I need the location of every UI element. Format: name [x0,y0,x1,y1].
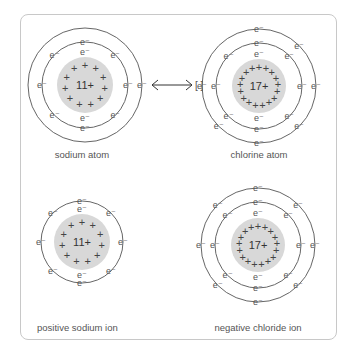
sodium-ion-diagram: +++++++++++11+e⁻e⁻e⁻e⁻e⁻e⁻e⁻e⁻e⁻e⁻ [36,196,128,288]
nuclear-charge: 17+ [250,80,269,92]
electron: e⁻ [106,266,116,276]
electron: e⁻ [311,81,321,91]
proton-plus-icon: + [90,219,96,231]
label-chlorine-atom: chlorine atom [230,149,287,160]
proton-plus-icon: + [251,258,257,270]
electron: e⁻ [310,240,320,250]
proton-plus-icon: + [84,255,90,267]
proton-plus-icon: + [258,258,264,270]
electron: e⁻ [253,208,263,218]
electron: e⁻ [80,113,90,123]
electron: e⁻ [123,80,133,90]
proton-plus-icon: + [71,62,77,74]
proton-plus-icon: + [79,216,85,228]
electron: e⁻ [293,200,303,210]
electron: e⁻ [50,110,60,120]
electron: e⁻ [213,200,223,210]
electron: e⁻ [50,50,60,60]
electron: e⁻ [213,280,223,290]
electron: e⁻ [223,270,233,280]
electron: e⁻ [224,111,234,121]
electron: e⁻ [211,81,221,91]
nuclear-charge: 17+ [249,239,268,251]
electron: e⁻ [214,121,224,131]
proton-plus-icon: + [61,228,67,240]
chloride-ion-diagram: +++++++++++++++++17+e⁻e⁻e⁻e⁻e⁻e⁻e⁻e⁻e⁻e⁻… [196,183,320,307]
proton-plus-icon: + [59,239,65,251]
electron: e⁻ [110,110,120,120]
electron: e⁻ [253,272,263,282]
electron: e⁻ [253,197,263,207]
electron: e⁻ [253,297,263,307]
sodium-atom-diagram: +++++++++++11+e⁻e⁻e⁻e⁻e⁻e⁻e⁻e⁻e⁻e⁻e⁻ [28,28,147,142]
electron: e⁻ [118,237,128,247]
electron-transfer-arrow-icon [152,80,192,90]
proton-plus-icon: + [62,82,68,94]
electron: e⁻ [48,266,58,276]
electron: e⁻ [297,81,307,91]
electron: e⁻ [254,24,264,34]
electron: e⁻ [296,240,306,250]
proton-plus-icon: + [73,255,79,267]
electron: e⁻ [223,210,233,220]
proton-plus-icon: + [259,99,265,111]
electron: e⁻ [254,113,264,123]
electron: e⁻ [224,51,234,61]
electron: e⁻ [283,210,293,220]
chlorine-atom-diagram: +++++++++++++++++17+e⁻e⁻e⁻e⁻e⁻e⁻e⁻e⁻e⁻e⁻… [197,24,321,148]
electron: e⁻ [80,123,90,133]
electron: e⁻ [196,240,206,250]
electron: e⁻ [48,208,58,218]
empty-bracket: [ ] [195,80,204,91]
electron: e⁻ [254,38,264,48]
proton-plus-icon: + [255,220,261,232]
electron: e⁻ [37,80,47,90]
electron: e⁻ [137,80,147,90]
label-sodium-atom: sodium atom [55,149,109,160]
electron: e⁻ [80,47,90,57]
nuclear-charge: 11+ [76,79,94,91]
label-sodium-ion: positive sodium ion [37,322,118,333]
proton-plus-icon: + [266,96,272,108]
electron: e⁻ [294,121,304,131]
proton-plus-icon: + [67,92,73,104]
proton-plus-icon: + [252,99,258,111]
proton-plus-icon: + [256,61,262,73]
electron: e⁻ [80,37,90,47]
proton-plus-icon: + [68,219,74,231]
electron: e⁻ [106,208,116,218]
electron: e⁻ [284,51,294,61]
proton-plus-icon: + [249,62,255,74]
proton-plus-icon: + [93,62,99,74]
atom-diagram: +++++++++++11+e⁻e⁻e⁻e⁻e⁻e⁻e⁻e⁻e⁻e⁻e⁻ +++… [0,0,354,353]
proton-plus-icon: + [64,249,70,261]
electron: e⁻ [36,237,46,247]
electron: e⁻ [210,240,220,250]
proton-plus-icon: + [265,255,271,267]
label-chloride-ion: negative chloride ion [214,322,301,333]
electron: e⁻ [253,283,263,293]
electron: e⁻ [293,280,303,290]
electron: e⁻ [294,41,304,51]
electron: e⁻ [254,49,264,59]
electron: e⁻ [77,196,87,206]
electron: e⁻ [110,50,120,60]
proton-plus-icon: + [64,71,70,83]
electron: e⁻ [77,278,87,288]
proton-plus-icon: + [82,59,88,71]
nuclear-charge: 11+ [73,236,91,248]
electron: e⁻ [284,111,294,121]
proton-plus-icon: + [94,249,100,261]
electron: e⁻ [253,183,263,193]
electron: e⁻ [254,124,264,134]
proton-plus-icon: + [248,221,254,233]
proton-plus-icon: + [87,98,93,110]
proton-plus-icon: + [76,98,82,110]
diagram-canvas: +++++++++++11+e⁻e⁻e⁻e⁻e⁻e⁻e⁻e⁻e⁻e⁻e⁻ +++… [0,0,354,353]
electron: e⁻ [283,270,293,280]
proton-plus-icon: + [97,92,103,104]
electron: e⁻ [254,138,264,148]
